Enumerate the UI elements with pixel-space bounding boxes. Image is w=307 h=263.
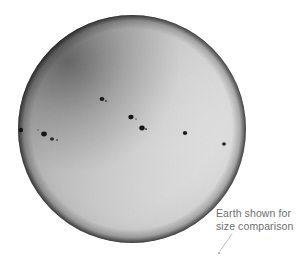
- sun-disc-group: [18, 15, 246, 243]
- photosphere-granulation: [18, 15, 246, 243]
- sunspot-spot-left-inner: [41, 132, 47, 137]
- sunspot-spot-center-upper: [128, 115, 133, 120]
- annotation-line-2: size comparison: [216, 220, 307, 233]
- sunspot-spot-center-lower-trail: [145, 128, 147, 130]
- sunspot-spot-right-outer: [222, 142, 226, 145]
- sunspot-spot-left-small-a: [37, 129, 39, 131]
- annotation-line-1: Earth shown for: [216, 207, 307, 220]
- sunspot-spot-center-upper-pair: [135, 118, 137, 120]
- sunspot-spot-top-center-tail: [105, 100, 107, 102]
- sunspot-spot-top-center: [100, 97, 105, 101]
- sun-photograph-figure: Earth shown for size comparison: [0, 0, 307, 263]
- sunspot-spot-right-mid: [183, 131, 187, 135]
- sunspot-spot-center-lower: [139, 126, 144, 131]
- sunspot-spot-left-limb: [19, 128, 23, 132]
- earth-size-comparison-annotation: Earth shown for size comparison: [216, 207, 307, 232]
- sunspot-spot-left-small-c: [56, 139, 58, 141]
- earth-size-dot: [218, 252, 220, 254]
- sunspot-spot-left-small-b: [50, 137, 54, 140]
